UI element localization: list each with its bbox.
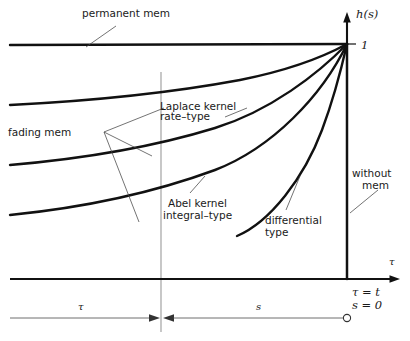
label-abel-kernel-line2: integral–type <box>163 209 232 221</box>
label-without-mem-line2: mem <box>362 179 389 191</box>
label-abel-kernel-line1: Abel kernel <box>168 197 227 209</box>
x-axis-arrowhead <box>390 275 401 283</box>
label-without-mem-line1: without <box>352 167 391 179</box>
label-laplace-kernel-line2: rate–type <box>160 110 210 122</box>
label-s-equals-zero: s = 0 <box>352 298 382 312</box>
label-dimension-s: s <box>256 301 261 312</box>
memory-kernel-figure: permanent mem fading mem Laplace kernel … <box>0 0 410 341</box>
leader-fading-mem-3 <box>104 132 139 222</box>
leader-fading-mem-1 <box>104 108 164 132</box>
label-fading-mem: fading mem <box>8 126 71 138</box>
dimension-arrow-tau <box>149 314 160 322</box>
label-permanent-mem: permanent mem <box>82 7 170 19</box>
y-axis-arrowhead <box>343 12 351 23</box>
label-differential-type-line1: differential <box>265 214 322 226</box>
label-x-axis: τ <box>389 256 395 267</box>
leader-without-mem <box>350 190 378 213</box>
dimension-arrow-s <box>163 314 174 322</box>
curve-fading-mem-upper <box>10 44 347 105</box>
label-y-tick-one: 1 <box>361 38 368 52</box>
label-dimension-tau: τ <box>78 301 84 312</box>
label-tau-equals-t: τ = t <box>352 285 380 299</box>
label-differential-type-line2: type <box>265 226 288 238</box>
curve-permanent-mem <box>10 44 347 45</box>
label-y-axis: h(s) <box>356 7 378 21</box>
marker-s-zero-open-circle <box>343 314 350 321</box>
